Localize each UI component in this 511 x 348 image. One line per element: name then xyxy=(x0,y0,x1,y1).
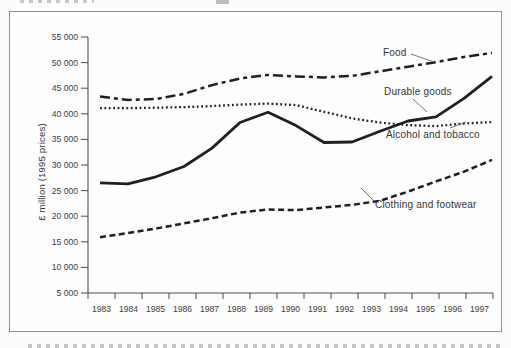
y-tick-label: 5 000 xyxy=(56,288,78,298)
y-tick-label: 45 000 xyxy=(52,83,79,93)
y-tick-label: 10 000 xyxy=(52,262,79,272)
x-tick-label: 1984 xyxy=(119,304,138,314)
x-tick-label: 1990 xyxy=(281,304,300,314)
x-tick-label: 1987 xyxy=(200,304,219,314)
series-label-clothing-and-footwear: Clothing and footwear xyxy=(375,199,477,210)
y-tick-label: 30 000 xyxy=(52,160,79,170)
x-tick-label: 1991 xyxy=(308,304,327,314)
y-tick-label: 50 000 xyxy=(52,58,79,68)
y-tick-label: 15 000 xyxy=(52,237,79,247)
x-tick-label: 1986 xyxy=(173,304,192,314)
x-tick-label: 1995 xyxy=(416,304,435,314)
label-leader-line xyxy=(361,188,374,201)
x-tick-label: 1992 xyxy=(335,304,354,314)
x-tick-label: 1994 xyxy=(389,304,408,314)
y-tick-label: 55 000 xyxy=(52,32,79,42)
label-leader-line xyxy=(411,54,434,62)
cropped-text-bottom xyxy=(28,344,500,348)
x-tick-label: 1993 xyxy=(362,304,381,314)
x-tick-label: 1996 xyxy=(443,304,462,314)
x-tick-label: 1997 xyxy=(470,304,489,314)
x-tick-label: 1988 xyxy=(227,304,246,314)
x-tick-label: 1985 xyxy=(146,304,165,314)
chart-figure: 5 00010 00015 00020 00025 00030 00035 00… xyxy=(0,0,511,348)
x-tick-label: 1989 xyxy=(254,304,273,314)
x-tick-label: 1983 xyxy=(92,304,111,314)
label-leader-line xyxy=(450,122,466,128)
y-tick-label: 25 000 xyxy=(52,186,79,196)
chart-canvas: 5 00010 00015 00020 00025 00030 00035 00… xyxy=(0,0,511,348)
y-axis-title: £ million (1995 prices) xyxy=(36,123,47,221)
series-label-alcohol-and-tobacco: Alcohol and tobacco xyxy=(386,129,480,140)
series-label-durable-goods: Durable goods xyxy=(384,86,452,97)
series-line-alcohol-and-tobacco xyxy=(100,104,492,127)
label-leader-line xyxy=(413,99,427,112)
y-tick-label: 40 000 xyxy=(52,109,79,119)
series-label-food: Food xyxy=(383,47,407,58)
y-tick-label: 20 000 xyxy=(52,211,79,221)
y-tick-label: 35 000 xyxy=(52,134,79,144)
